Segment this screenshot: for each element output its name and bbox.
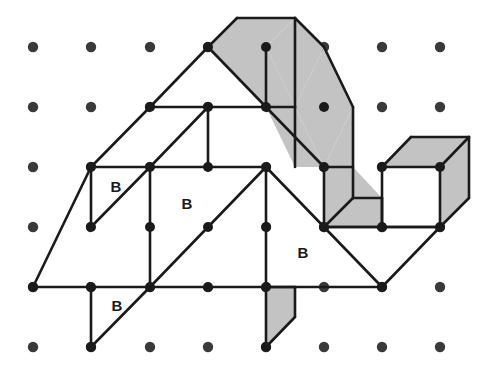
vertex-v-150-287 [145, 282, 155, 292]
vertex-v-266-347 [261, 342, 271, 352]
vertex-v-208-47 [203, 42, 213, 52]
grid-dot [28, 222, 38, 232]
vertex-v-91-167 [86, 162, 96, 172]
vertex-v-440-227 [435, 222, 445, 232]
grid-dot [28, 342, 38, 352]
plain-face-lower-left-quad [91, 227, 150, 287]
isometric-figure-svg: BBBB [0, 0, 493, 373]
vertex-v-91-287 [86, 282, 96, 292]
vertex-v-91-227 [86, 222, 96, 232]
figure-canvas: BBBB [0, 0, 493, 373]
plain-face-cube-front [382, 167, 440, 227]
vertex-v-91-347 [86, 342, 96, 352]
vertex-v-266-107 [261, 102, 271, 112]
label-b-1: B [111, 178, 122, 195]
vertex-v-382-167 [377, 162, 387, 172]
vertex-v-266-287 [261, 282, 271, 292]
grid-dot [435, 342, 445, 352]
vertex-v-266-47 [261, 42, 271, 52]
vertex-v-208-227 [203, 222, 213, 232]
vertex-v-208-167 [203, 162, 213, 172]
vertex-v-382-227 [377, 222, 387, 232]
vertex-v-324-167 [319, 162, 329, 172]
vertex-v-208-287 [203, 282, 213, 292]
vertex-v-33-287 [28, 282, 38, 292]
grid-dot [377, 342, 387, 352]
vertex-v-150-167 [145, 162, 155, 172]
grid-dot [319, 342, 329, 352]
vertex-v-324-227 [319, 222, 329, 232]
grid-dot [28, 102, 38, 112]
grid-dot [203, 342, 213, 352]
grid-dot [86, 42, 96, 52]
vertex-v-150-227 [145, 222, 155, 232]
vertex-v-208-107 [203, 102, 213, 112]
grid-dot [435, 282, 445, 292]
grid-dot [435, 42, 445, 52]
grid-dot [28, 162, 38, 172]
vertex-v-440-167 [435, 162, 445, 172]
vertex-v-324-107 [319, 102, 329, 112]
vertex-v-266-227 [261, 222, 271, 232]
label-b-2: B [182, 195, 193, 212]
vertex-v-382-287 [377, 282, 387, 292]
grid-dot [28, 42, 38, 52]
grid-dot [377, 42, 387, 52]
grid-dot [435, 102, 445, 112]
label-b-4: B [112, 297, 123, 314]
grid-dot [377, 102, 387, 112]
plain-face-upper-right-quad [208, 107, 266, 167]
vertex-v-266-167 [261, 162, 271, 172]
vertex-v-150-107 [145, 102, 155, 112]
label-b-3: B [298, 244, 309, 261]
grid-dot [86, 102, 96, 112]
grid-dot [145, 42, 155, 52]
grid-dot [145, 342, 155, 352]
